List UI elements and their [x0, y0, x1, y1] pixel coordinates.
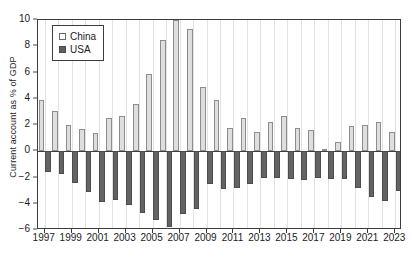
- bar-china-2018: [322, 149, 328, 152]
- bar-china-2007: [173, 20, 179, 151]
- legend-swatch-china-icon: [59, 33, 66, 40]
- y-tick-label: 8: [8, 40, 30, 50]
- gridline: [355, 20, 356, 228]
- bar-china-2008: [187, 29, 193, 151]
- bar-usa-2014: [274, 151, 280, 177]
- bar-usa-2019: [342, 151, 348, 179]
- bar-china-2016: [295, 128, 301, 152]
- bar-china-2006: [160, 40, 166, 152]
- gridline: [395, 20, 396, 228]
- bar-china-2003: [119, 116, 125, 151]
- gridline: [328, 20, 329, 228]
- x-tick-label: 2003: [114, 232, 136, 244]
- chart-container: Current account as % of GDP 1086420−2−4−…: [0, 0, 412, 262]
- gridline: [301, 20, 302, 228]
- y-tick-label: 10: [8, 14, 30, 24]
- y-tick-label: 0: [8, 145, 30, 155]
- y-axis-tick-labels: 1086420−2−4−6: [8, 0, 30, 262]
- bar-usa-2003: [126, 151, 132, 205]
- bar-china-2009: [200, 87, 206, 151]
- bar-usa-2023: [396, 151, 401, 190]
- bar-usa-2000: [86, 151, 92, 192]
- y-tick-label: −6: [8, 224, 30, 234]
- legend-item-usa: USA: [59, 43, 96, 56]
- bar-china-2023: [389, 132, 395, 152]
- bar-china-2021: [362, 125, 368, 151]
- bar-china-2015: [281, 116, 287, 151]
- legend-item-china: China: [59, 30, 96, 43]
- bar-china-2011: [227, 128, 233, 152]
- x-tick-label: 2019: [329, 232, 351, 244]
- y-tick-label: 2: [8, 119, 30, 129]
- bar-china-2019: [335, 142, 341, 151]
- bar-china-1999: [66, 125, 72, 151]
- x-tick-label: 2017: [302, 232, 324, 244]
- gridline: [247, 20, 248, 228]
- bar-usa-2017: [315, 151, 321, 177]
- bar-usa-2008: [194, 151, 200, 209]
- bar-usa-2018: [328, 151, 334, 179]
- y-tick-label: 6: [8, 67, 30, 77]
- x-tick-label: 2023: [383, 232, 405, 244]
- bar-china-2000: [79, 129, 85, 151]
- gridline: [287, 20, 288, 228]
- bar-china-2002: [106, 118, 112, 151]
- x-tick-label: 2015: [275, 232, 297, 244]
- x-tick-label: 2011: [222, 232, 244, 244]
- bar-usa-2001: [99, 151, 105, 202]
- bar-china-2001: [93, 133, 99, 151]
- legend-swatch-usa-icon: [59, 46, 66, 53]
- bar-usa-2002: [113, 151, 119, 200]
- bar-china-1997: [39, 100, 45, 151]
- x-tick-label: 2001: [87, 232, 109, 244]
- y-tick-label: −2: [8, 172, 30, 182]
- bar-china-2010: [214, 100, 220, 151]
- bar-china-2005: [146, 74, 152, 151]
- bar-usa-2004: [140, 151, 146, 213]
- bar-usa-2005: [153, 151, 159, 219]
- x-tick-label: 1997: [33, 232, 55, 244]
- gridline: [274, 20, 275, 228]
- bar-china-2020: [349, 126, 355, 151]
- bar-usa-2011: [234, 151, 240, 188]
- bar-usa-1997: [45, 151, 51, 172]
- x-tick-label: 2021: [356, 232, 378, 244]
- legend-label-china: China: [70, 31, 96, 42]
- y-tick-label: 4: [8, 93, 30, 103]
- x-tick-label: 2009: [194, 232, 216, 244]
- gridline: [341, 20, 342, 228]
- gridline: [260, 20, 261, 228]
- x-tick-label: 2013: [248, 232, 270, 244]
- bar-usa-2013: [261, 151, 267, 177]
- chart-legend: China USA: [52, 25, 104, 61]
- gridline: [233, 20, 234, 228]
- bar-usa-2006: [167, 151, 173, 227]
- bar-usa-2020: [355, 151, 361, 188]
- bar-usa-2015: [288, 151, 294, 179]
- bar-usa-2009: [207, 151, 213, 184]
- bar-china-2004: [133, 104, 139, 151]
- bar-usa-2022: [382, 151, 388, 201]
- bar-usa-1999: [72, 151, 78, 183]
- x-tick-label: 2007: [167, 232, 189, 244]
- gridline: [207, 20, 208, 228]
- legend-label-usa: USA: [70, 44, 91, 55]
- bar-china-2013: [254, 132, 260, 152]
- x-tick-label: 1999: [60, 232, 82, 244]
- bar-china-2012: [241, 118, 247, 151]
- bar-china-1998: [52, 111, 58, 152]
- bar-china-2014: [268, 122, 274, 151]
- gridline: [220, 20, 221, 228]
- x-axis-tick-labels: 1997199920012003200520072009201120132015…: [37, 232, 401, 248]
- bar-usa-2010: [221, 151, 227, 189]
- bar-usa-1998: [59, 151, 65, 173]
- bar-usa-2012: [247, 151, 253, 184]
- gridline: [314, 20, 315, 228]
- bar-usa-2016: [301, 151, 307, 180]
- bar-usa-2007: [180, 151, 186, 214]
- bar-china-2017: [308, 130, 314, 151]
- bar-china-2022: [376, 122, 382, 151]
- gridline: [45, 20, 46, 228]
- y-tick-label: −4: [8, 198, 30, 208]
- bar-usa-2021: [369, 151, 375, 197]
